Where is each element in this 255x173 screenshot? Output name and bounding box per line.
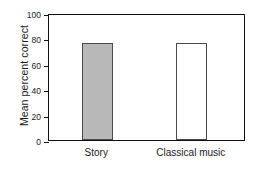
bar-story xyxy=(82,43,113,140)
y-axis-tick-label: 80 xyxy=(32,34,41,47)
plot-area: 020406080100 xyxy=(48,14,245,141)
y-axis-tick: 40 xyxy=(44,91,49,92)
bar-chart-figure: Mean percent correct 020406080100 StoryC… xyxy=(0,0,255,173)
y-axis-tick-label: 100 xyxy=(27,9,41,22)
y-axis-tick-label: 40 xyxy=(32,85,41,98)
x-axis-label-classical-music: Classical music xyxy=(131,146,251,160)
y-axis-tick: 0 xyxy=(44,142,49,143)
bar-classical-music xyxy=(176,43,207,140)
y-axis-tick-label: 60 xyxy=(32,60,41,73)
y-axis-tick: 20 xyxy=(44,117,49,118)
y-axis-tick: 80 xyxy=(44,40,49,41)
y-axis-tick-label: 20 xyxy=(32,111,41,124)
y-axis-title: Mean percent correct xyxy=(16,3,32,148)
y-axis-tick: 60 xyxy=(44,66,49,67)
y-axis-tick: 100 xyxy=(44,15,49,16)
